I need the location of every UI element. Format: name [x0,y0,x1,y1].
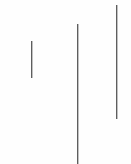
vertical-mark-3 [116,5,117,119]
vertical-mark-1 [31,41,32,78]
chart-canvas [0,0,131,164]
vertical-mark-2 [77,24,78,164]
